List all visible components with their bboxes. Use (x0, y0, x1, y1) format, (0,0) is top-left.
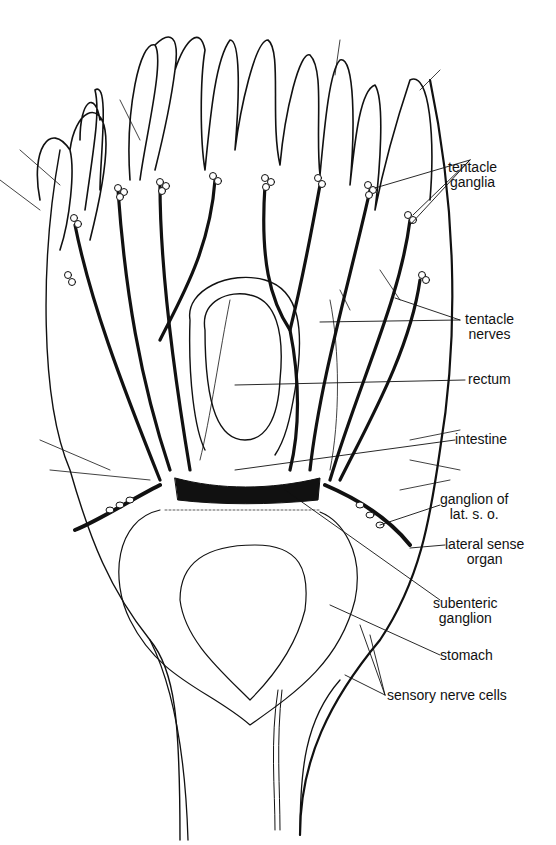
label-rectum: rectum (468, 372, 511, 387)
label-ganglion-lat-so: ganglion of lat. s. o. (440, 492, 509, 522)
label-line: ganglia (448, 175, 497, 190)
label-stomach: stomach (440, 648, 493, 663)
rectum-drawing (204, 294, 281, 440)
label-line: ganglion (433, 611, 498, 626)
label-line: tentacle (448, 160, 497, 175)
illustration-drawing (0, 0, 556, 845)
label-line: organ (445, 552, 524, 567)
label-line: tentacle (465, 312, 514, 327)
label-tentacle-ganglia: tentacle ganglia (448, 160, 497, 190)
body-wall-left (46, 150, 180, 840)
label-line: nerves (465, 327, 514, 342)
label-line: ganglion of (440, 492, 509, 507)
tentacle-nerves-drawing (75, 180, 420, 480)
label-tentacle-nerves: tentacle nerves (465, 312, 514, 342)
anatomy-diagram: tentacle ganglia tentacle nerves rectum … (0, 0, 556, 845)
label-lateral-sense-organ: lateral sense organ (445, 537, 524, 567)
label-line: lateral sense (445, 537, 524, 552)
label-intestine: intestine (455, 432, 507, 447)
tentacles (37, 37, 431, 250)
label-subenteric-ganglion: subenteric ganglion (433, 596, 498, 626)
stomach-drawing (119, 510, 357, 725)
label-line: lat. s. o. (440, 507, 509, 522)
label-sensory-nerve-cells: sensory nerve cells (387, 688, 507, 703)
label-line: subenteric (433, 596, 498, 611)
